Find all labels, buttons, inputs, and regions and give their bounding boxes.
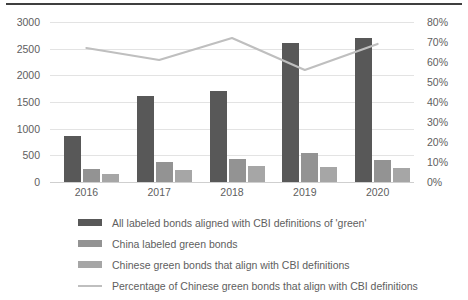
bar-group: [196, 22, 269, 182]
chart-page: 050010001500200025003000 0%10%20%30%40%5…: [0, 0, 468, 300]
bar-group: [341, 22, 414, 182]
top-divider: [6, 3, 462, 5]
y-tick-label-right: 50%: [427, 77, 448, 87]
x-tick-label: 2016: [50, 186, 123, 202]
bar: [210, 91, 227, 182]
x-tick-label: 2020: [341, 186, 414, 202]
legend-color-swatch-icon: [78, 240, 102, 247]
bar: [301, 153, 318, 182]
bar: [282, 43, 299, 182]
y-tick-label-left: 1500: [17, 97, 40, 107]
x-tick-label: 2018: [196, 186, 269, 202]
legend-line-swatch-icon: [78, 285, 102, 287]
bar-groups: [50, 22, 414, 182]
y-tick-label-right: 10%: [427, 157, 448, 167]
plot-area: [50, 22, 414, 182]
y-tick-label-right: 30%: [427, 117, 448, 127]
legend-item-label: China labeled green bonds: [112, 238, 238, 250]
y-tick-label-left: 0: [34, 177, 40, 187]
y-tick-label-left: 3000: [17, 17, 40, 27]
legend-color-swatch-icon: [78, 219, 102, 226]
bar: [320, 167, 337, 182]
legend-item[interactable]: China labeled green bonds: [78, 233, 438, 254]
bar: [374, 160, 391, 182]
y-tick-label-right: 60%: [427, 57, 448, 67]
legend-item-label: Percentage of Chinese green bonds that a…: [112, 280, 418, 292]
y-tick-label-right: 70%: [427, 37, 448, 47]
bar: [102, 174, 119, 182]
bar: [175, 170, 192, 182]
y-tick-label-left: 1000: [17, 124, 40, 134]
y-tick-label-left: 2000: [17, 70, 40, 80]
bar: [83, 169, 100, 182]
legend-item-label: All labeled bonds aligned with CBI defin…: [112, 217, 366, 229]
bar-group: [268, 22, 341, 182]
y-tick-label-right: 20%: [427, 137, 448, 147]
legend-item-label: Chinese green bonds that align with CBI …: [112, 259, 350, 271]
gridline: [50, 182, 414, 183]
x-axis-labels: 20162017201820192020: [50, 186, 414, 202]
bar: [156, 162, 173, 182]
bar: [248, 166, 265, 182]
y-tick-label-left: 500: [22, 150, 40, 160]
y-tick-label-right: 0%: [427, 177, 442, 187]
legend-item[interactable]: Percentage of Chinese green bonds that a…: [78, 275, 438, 296]
bar-group: [50, 22, 123, 182]
legend-item[interactable]: Chinese green bonds that align with CBI …: [78, 254, 438, 275]
bar-group: [123, 22, 196, 182]
chart-legend: All labeled bonds aligned with CBI defin…: [78, 212, 438, 296]
bar: [64, 136, 81, 182]
y-tick-label-right: 80%: [427, 17, 448, 27]
bar: [137, 96, 154, 182]
x-tick-label: 2019: [268, 186, 341, 202]
bar: [229, 159, 246, 182]
legend-color-swatch-icon: [78, 261, 102, 268]
y-tick-label-right: 40%: [427, 97, 448, 107]
y-axis-left: 050010001500200025003000: [0, 22, 44, 182]
bar: [393, 168, 410, 182]
legend-item[interactable]: All labeled bonds aligned with CBI defin…: [78, 212, 438, 233]
y-axis-right: 0%10%20%30%40%50%60%70%80%: [420, 22, 466, 182]
y-tick-label-left: 2500: [17, 44, 40, 54]
bar: [355, 38, 372, 182]
x-tick-label: 2017: [123, 186, 196, 202]
